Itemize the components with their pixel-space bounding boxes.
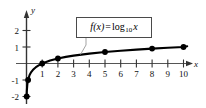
x-tick-label: 6 — [118, 69, 123, 79]
x-tick-label: 1 — [40, 69, 45, 79]
formula-text: f(x)=log10x — [90, 21, 137, 34]
x-tick-label: 4 — [87, 69, 92, 79]
data-point — [25, 77, 31, 83]
data-point — [55, 56, 61, 62]
y-axis-label: y — [30, 5, 35, 15]
data-point — [102, 49, 108, 55]
x-tick-label: 3 — [71, 69, 76, 79]
formula-callout-box: f(x)=log10x — [76, 17, 152, 38]
data-point — [149, 46, 155, 52]
y-tick-label: 2 — [15, 26, 20, 36]
logarithm-graph-figure: 1 2 3 4 5 6 7 8 9 10 2 1 -1 -2 x y — [0, 0, 206, 108]
y-tick-label: 1 — [15, 43, 20, 53]
x-tick-label: 7 — [134, 69, 139, 79]
data-point — [181, 44, 187, 50]
x-tick-label: 10 — [179, 69, 189, 79]
x-tick-label: 8 — [150, 69, 155, 79]
data-point — [39, 61, 45, 67]
x-tick-label: 9 — [166, 69, 171, 79]
x-tick-label: 2 — [56, 69, 61, 79]
callout-leader-line — [81, 38, 87, 55]
y-tick-label: -2 — [12, 92, 20, 102]
x-tick-label: 5 — [103, 69, 108, 79]
x-tick-labels: 1 2 3 4 5 6 7 8 9 10 — [40, 69, 189, 79]
log-base: 10 — [125, 26, 134, 34]
y-tick-label: -1 — [12, 76, 20, 86]
data-point — [24, 94, 30, 100]
x-axis-label: x — [193, 59, 198, 69]
